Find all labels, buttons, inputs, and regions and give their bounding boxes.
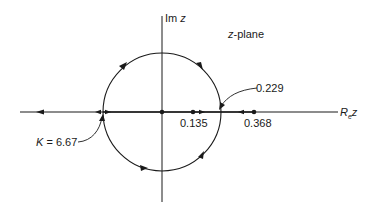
real-axis-label: Rez: [340, 106, 357, 123]
real-label-main: R: [340, 106, 348, 118]
imag-label-var: z: [180, 12, 186, 24]
breakaway-label: 0.229: [256, 82, 284, 94]
imag-label-main: Im: [165, 12, 177, 24]
leader-arrow-icon: [99, 114, 105, 121]
zero-dot-0135: [191, 110, 196, 115]
root-locus-diagram: [0, 0, 374, 213]
leader-line-gain: [78, 117, 102, 142]
gain-label: K = 6.67: [36, 136, 77, 148]
origin-pole-dot: [160, 110, 165, 115]
imaginary-axis-label: Im z: [165, 12, 186, 24]
leader-line-0229: [221, 88, 257, 106]
arrow-right-icon: [199, 110, 205, 114]
leader-arrow-icon: [219, 102, 225, 110]
arrow-left-icon: [36, 110, 44, 115]
plane-title-rest: -plane: [234, 28, 265, 40]
arrow-circle-icon: [140, 165, 148, 171]
real-label-var: z: [352, 106, 358, 118]
zero-label: 0.135: [180, 117, 208, 129]
arrow-circle-icon: [196, 62, 203, 70]
arrow-left-icon: [95, 110, 101, 114]
arrow-right-icon: [105, 110, 111, 114]
arrow-left-icon: [238, 110, 244, 114]
gain-value: = 6.67: [43, 136, 77, 148]
plane-title: z-plane: [228, 28, 264, 40]
pole-dot-0368: [252, 110, 257, 115]
pole-label: 0.368: [244, 117, 272, 129]
